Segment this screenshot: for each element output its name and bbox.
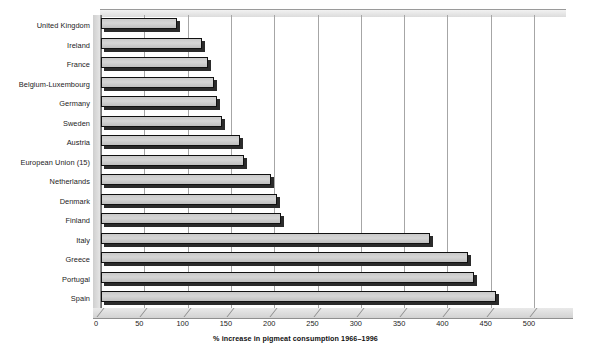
bar bbox=[101, 116, 222, 127]
axis-tick-400 bbox=[443, 308, 451, 317]
plot-area bbox=[100, 15, 566, 308]
axis-tick-500 bbox=[529, 308, 537, 317]
bar-face bbox=[101, 116, 222, 127]
category-label: Germany bbox=[0, 100, 90, 108]
category-label: European Union (15) bbox=[0, 159, 90, 167]
category-label: France bbox=[0, 61, 90, 69]
tick-label-350: 350 bbox=[393, 319, 405, 328]
bar bbox=[101, 96, 217, 107]
category-label: Portugal bbox=[0, 276, 90, 284]
tick-label-50: 50 bbox=[135, 319, 143, 328]
tick-label-150: 150 bbox=[220, 319, 232, 328]
bar-face bbox=[101, 155, 244, 166]
gridline-450 bbox=[491, 15, 492, 308]
bar bbox=[101, 135, 240, 146]
axis-tick-0 bbox=[96, 308, 104, 317]
category-label: Austria bbox=[0, 139, 90, 147]
category-label: Ireland bbox=[0, 42, 90, 50]
bar-face bbox=[101, 77, 214, 88]
bar bbox=[101, 194, 277, 205]
axis-tick-350 bbox=[400, 308, 408, 317]
bar-face bbox=[101, 213, 281, 224]
category-label: Belgium-Luxembourg bbox=[0, 81, 90, 89]
tick-label-400: 400 bbox=[436, 319, 448, 328]
category-label: Netherlands bbox=[0, 178, 90, 186]
tick-label-200: 200 bbox=[263, 319, 275, 328]
category-label: Denmark bbox=[0, 198, 90, 206]
axis-tick-150 bbox=[226, 308, 234, 317]
bar bbox=[101, 252, 468, 263]
bar-face bbox=[101, 38, 202, 49]
category-label: United Kingdom bbox=[0, 22, 90, 30]
category-label: Italy bbox=[0, 237, 90, 245]
tick-label-500: 500 bbox=[523, 319, 535, 328]
bar bbox=[101, 57, 208, 68]
axis-tick-250 bbox=[313, 308, 321, 317]
axis-tick-200 bbox=[270, 308, 278, 317]
bar bbox=[101, 38, 202, 49]
tick-label-250: 250 bbox=[306, 319, 318, 328]
category-axis-labels: United KingdomIrelandFranceBelgium-Luxem… bbox=[0, 18, 96, 306]
value-axis bbox=[93, 308, 573, 319]
bar-face bbox=[101, 252, 468, 263]
bar bbox=[101, 155, 244, 166]
bar-face bbox=[101, 135, 240, 146]
bar bbox=[101, 77, 214, 88]
x-axis-title: % increase in pigmeat consumption 1966–1… bbox=[0, 334, 591, 343]
bar-face bbox=[101, 272, 474, 283]
category-label: Spain bbox=[0, 295, 90, 303]
bar bbox=[101, 272, 474, 283]
bar-face bbox=[101, 194, 277, 205]
bar-face bbox=[101, 291, 496, 302]
axis-tick-300 bbox=[356, 308, 364, 317]
bar-face bbox=[101, 57, 208, 68]
bar-face bbox=[101, 18, 177, 29]
tick-label-0: 0 bbox=[94, 319, 98, 328]
bar bbox=[101, 18, 177, 29]
bar-face bbox=[101, 233, 430, 244]
bar bbox=[101, 213, 281, 224]
bar-face bbox=[101, 96, 217, 107]
axis-tick-100 bbox=[183, 308, 191, 317]
bar bbox=[101, 233, 430, 244]
category-label: Finland bbox=[0, 217, 90, 225]
tick-label-450: 450 bbox=[480, 319, 492, 328]
bar bbox=[101, 291, 496, 302]
tick-label-300: 300 bbox=[350, 319, 362, 328]
category-label: Sweden bbox=[0, 120, 90, 128]
axis-tick-450 bbox=[486, 308, 494, 317]
tick-label-100: 100 bbox=[176, 319, 188, 328]
category-label: Greece bbox=[0, 256, 90, 264]
bar bbox=[101, 174, 271, 185]
bar-face bbox=[101, 174, 271, 185]
bar-chart: United KingdomIrelandFranceBelgium-Luxem… bbox=[0, 0, 591, 353]
axis-tick-50 bbox=[140, 308, 148, 317]
gridline-500 bbox=[534, 15, 535, 308]
